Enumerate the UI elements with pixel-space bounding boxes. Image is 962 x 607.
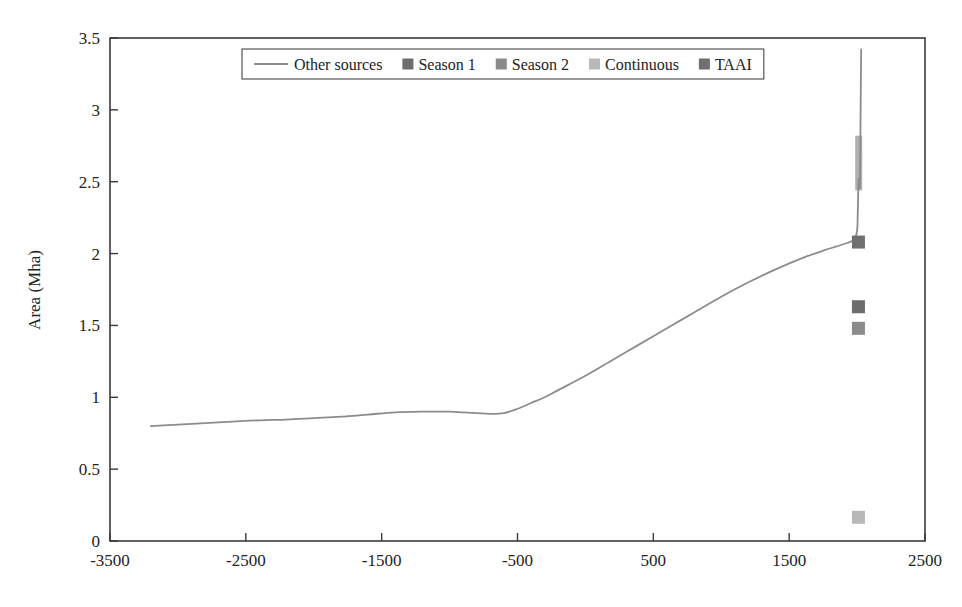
legend-label: Season 2: [512, 56, 569, 73]
y-tick-label: 1: [92, 388, 101, 407]
y-tick-label: 1.5: [79, 316, 100, 335]
figure-background: [0, 0, 962, 607]
x-tick-label: 500: [641, 551, 667, 570]
x-tick-label: -3500: [90, 551, 130, 570]
chart-svg: 3.5 3 2.5 2 1.5 1 0.5 0 Area (Mha) -3500…: [0, 0, 962, 607]
marker-continuous: [852, 511, 865, 524]
y-tick-label: 3.5: [79, 29, 100, 48]
y-tick-label: 0.5: [79, 460, 100, 479]
legend-square-marker: [496, 59, 507, 70]
legend-label: Continuous: [605, 56, 679, 73]
x-tick-label: -1500: [362, 551, 402, 570]
legend-label: Season 1: [418, 56, 475, 73]
legend-square-marker: [402, 59, 413, 70]
y-tick-label: 2: [92, 245, 101, 264]
y-axis-title: Area (Mha): [25, 250, 44, 330]
marker-season-1: [852, 300, 865, 313]
legend-label: Other sources: [294, 56, 382, 73]
legend-square-marker: [589, 59, 600, 70]
chart-figure: 3.5 3 2.5 2 1.5 1 0.5 0 Area (Mha) -3500…: [0, 0, 962, 607]
y-tick-label: 0: [92, 532, 101, 551]
legend-square-marker: [699, 59, 710, 70]
marker-season-2: [852, 322, 865, 335]
y-tick-label: 3: [92, 101, 101, 120]
x-tick-label: -2500: [226, 551, 266, 570]
legend-label: TAAI: [715, 56, 752, 73]
y-tick-label: 2.5: [79, 173, 100, 192]
chart-legend: Other sourcesSeason 1Season 2ContinuousT…: [242, 49, 764, 79]
x-tick-label: 2500: [908, 551, 942, 570]
marker-taai: [852, 236, 865, 249]
x-tick-label: -500: [502, 551, 533, 570]
x-tick-label: 1500: [772, 551, 806, 570]
